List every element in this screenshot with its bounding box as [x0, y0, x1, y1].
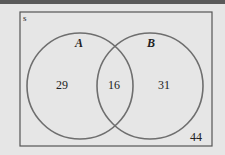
- universe-label: s: [23, 13, 27, 23]
- set-a-label: A: [74, 36, 83, 50]
- b-only-count: 31: [158, 78, 170, 92]
- intersection-count: 16: [108, 78, 120, 92]
- venn-diagram: s A B 29 16 31 44: [0, 0, 225, 155]
- outside-count: 44: [190, 130, 202, 144]
- a-only-count: 29: [56, 78, 68, 92]
- set-b-label: B: [146, 36, 155, 50]
